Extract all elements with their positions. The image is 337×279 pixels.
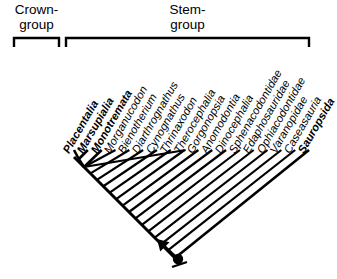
branch-dinocephalia bbox=[135, 150, 226, 218]
branch-edaphosauridae bbox=[148, 150, 253, 231]
cladogram-figure: Crown- group Stem- group PlacentaliaMars… bbox=[0, 0, 337, 279]
stem-group-bracket bbox=[66, 38, 309, 47]
branch-therocephalia bbox=[116, 150, 184, 199]
branch-ophiacodontidae bbox=[155, 150, 268, 238]
crown-group-bracket bbox=[14, 38, 59, 47]
branch-sauropsida bbox=[175, 150, 309, 258]
